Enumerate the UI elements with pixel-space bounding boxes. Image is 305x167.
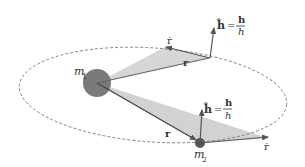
svg-text:ĥ: ĥ: [216, 18, 225, 32]
svg-text:h: h: [238, 14, 246, 25]
label-m1: m 1: [74, 65, 87, 81]
equation-h-hat-lower: ĥ = h h: [203, 97, 233, 121]
svg-text:h: h: [238, 26, 244, 37]
svg-text:h: h: [225, 110, 231, 121]
mass-m2: [195, 138, 205, 148]
label-r-lower: r: [165, 128, 171, 139]
svg-text:=: =: [227, 20, 235, 31]
svg-text:=: =: [214, 104, 222, 115]
h-hat-vector-upper: [210, 28, 214, 58]
svg-text:1: 1: [82, 72, 87, 81]
label-r-dot-upper: ṙ: [167, 35, 172, 46]
swept-area-lower: [97, 83, 268, 143]
label-m2: m 2: [194, 148, 207, 164]
label-r-upper: r: [183, 57, 189, 68]
orbit-diagram: m 1 m 2 ĥ = h h ṙ r ĥ = h h r ṙ: [0, 0, 305, 167]
svg-text:h: h: [225, 97, 233, 108]
equation-h-hat-upper: ĥ = h h: [216, 14, 246, 37]
label-r-dot-lower: ṙ: [264, 141, 269, 152]
swept-area-upper: [97, 47, 210, 83]
svg-text:2: 2: [202, 155, 207, 164]
svg-text:ĥ: ĥ: [203, 102, 212, 116]
